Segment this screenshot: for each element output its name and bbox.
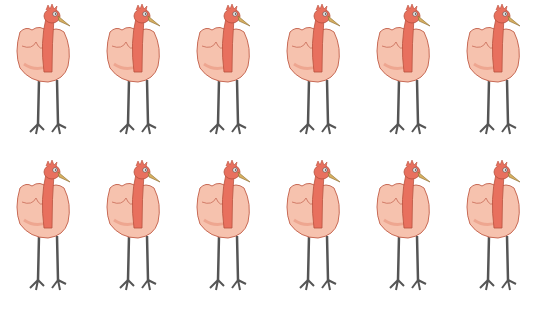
bird-illustration: [462, 2, 532, 142]
bird-illustration: [102, 2, 172, 142]
bird-illustration: [102, 158, 172, 298]
bird-illustration: [12, 2, 82, 142]
bird-illustration: [12, 158, 82, 298]
bird-illustration: [192, 158, 262, 298]
bird-illustration: [282, 2, 352, 142]
bird-illustration: [462, 158, 532, 298]
bird-illustration: [192, 2, 262, 142]
bird-illustration: [372, 2, 442, 142]
bird-illustration: [282, 158, 352, 298]
bird-illustration: [372, 158, 442, 298]
